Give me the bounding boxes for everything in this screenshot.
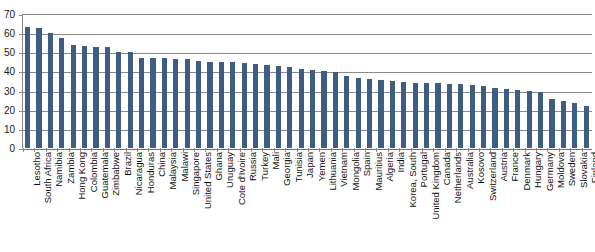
- bar[interactable]: [458, 84, 463, 148]
- x-label-slot: Mauritius: [364, 152, 375, 252]
- bar[interactable]: [333, 72, 338, 148]
- bar[interactable]: [447, 84, 452, 148]
- bar[interactable]: [492, 88, 497, 148]
- x-label-slot: Lesotho: [22, 152, 33, 252]
- x-label-slot: Spain: [353, 152, 364, 252]
- bar-slot: [46, 14, 57, 148]
- bar[interactable]: [584, 106, 589, 148]
- bar[interactable]: [139, 58, 144, 148]
- bar[interactable]: [150, 58, 155, 148]
- x-label-slot: Canada: [432, 152, 443, 252]
- bar[interactable]: [538, 92, 543, 148]
- bar-slot: [319, 14, 330, 148]
- x-label-slot: Guatemala: [90, 152, 101, 252]
- bar-slot: [160, 14, 171, 148]
- x-label-slot: Malaysia: [159, 152, 170, 252]
- bar[interactable]: [173, 59, 178, 148]
- x-label-slot: Sweden: [558, 152, 569, 252]
- bar[interactable]: [287, 67, 292, 148]
- bar[interactable]: [185, 59, 190, 148]
- x-label-slot: Zimbabwe: [102, 152, 113, 252]
- bar-slot: [376, 14, 387, 148]
- bar[interactable]: [401, 82, 406, 148]
- bar[interactable]: [299, 69, 304, 148]
- bar[interactable]: [71, 45, 76, 148]
- bar[interactable]: [264, 65, 269, 148]
- bar-slot: [137, 14, 148, 148]
- chart-title: [0, 0, 595, 4]
- x-label-slot: Cote d'Ivoire: [227, 152, 238, 252]
- bars-group: [23, 15, 592, 148]
- y-tick-label-10: 10: [0, 125, 15, 135]
- bar[interactable]: [515, 90, 520, 148]
- bar-slot: [194, 14, 205, 148]
- bar[interactable]: [470, 85, 475, 148]
- bar[interactable]: [48, 33, 53, 148]
- bar[interactable]: [93, 47, 98, 148]
- bar[interactable]: [561, 101, 566, 148]
- bar-slot: [365, 14, 376, 148]
- bar[interactable]: [105, 47, 110, 148]
- bar[interactable]: [116, 52, 121, 148]
- bar[interactable]: [321, 71, 326, 148]
- bar[interactable]: [36, 28, 41, 148]
- bar[interactable]: [276, 66, 281, 148]
- x-label-slot: Japan: [296, 152, 307, 252]
- x-label-slot: Singapore: [182, 152, 193, 252]
- bar[interactable]: [82, 46, 87, 148]
- bar[interactable]: [356, 78, 361, 148]
- bar-slot: [34, 14, 45, 148]
- bar[interactable]: [128, 52, 133, 148]
- x-label-slot: Switzerland: [478, 152, 489, 252]
- bar-slot: [570, 14, 581, 148]
- x-label-slot: Mongolia: [341, 152, 352, 252]
- bar-slot: [308, 14, 319, 148]
- bar-slot: [547, 14, 558, 148]
- bar-slot: [126, 14, 137, 148]
- bar[interactable]: [504, 89, 509, 148]
- x-label-slot: Mali: [261, 152, 272, 252]
- bar-slot: [217, 14, 228, 148]
- bar[interactable]: [207, 62, 212, 148]
- bar[interactable]: [310, 70, 315, 148]
- bar[interactable]: [25, 27, 30, 148]
- x-label-slot: Germany: [535, 152, 546, 252]
- bar[interactable]: [367, 79, 372, 148]
- bar-slot: [559, 14, 570, 148]
- bar[interactable]: [481, 86, 486, 148]
- bar-slot: [23, 14, 34, 148]
- bar[interactable]: [435, 83, 440, 148]
- y-tick-label-50: 50: [0, 48, 15, 58]
- bar[interactable]: [413, 83, 418, 148]
- bar[interactable]: [162, 58, 167, 148]
- bar[interactable]: [549, 99, 554, 148]
- x-label-slot: United Kingdom: [421, 152, 432, 252]
- bar-slot: [456, 14, 467, 148]
- x-label-slot: Russia: [239, 152, 250, 252]
- y-tick-label-40: 40: [0, 67, 15, 77]
- bar[interactable]: [572, 103, 577, 148]
- bar[interactable]: [390, 81, 395, 148]
- bar-slot: [171, 14, 182, 148]
- bar[interactable]: [424, 83, 429, 148]
- bar-slot: [490, 14, 501, 148]
- bar[interactable]: [196, 61, 201, 148]
- bar[interactable]: [527, 91, 532, 148]
- y-tick-label-0: 0: [0, 144, 15, 154]
- bar-slot: [103, 14, 114, 148]
- x-label-slot: Vietnam: [330, 152, 341, 252]
- bar[interactable]: [378, 80, 383, 148]
- bar[interactable]: [59, 38, 64, 148]
- x-label-slot: India: [387, 152, 398, 252]
- bar[interactable]: [253, 64, 258, 148]
- bar[interactable]: [242, 63, 247, 148]
- bar[interactable]: [219, 62, 224, 148]
- y-tick-label-30: 30: [0, 87, 15, 97]
- x-label-slot: Finland: [581, 152, 592, 252]
- bar-slot: [80, 14, 91, 148]
- bar[interactable]: [230, 62, 235, 148]
- x-label-slot: Australia: [455, 152, 466, 252]
- bar[interactable]: [344, 76, 349, 148]
- x-label-slot: Algeria: [375, 152, 386, 252]
- bar-slot: [91, 14, 102, 148]
